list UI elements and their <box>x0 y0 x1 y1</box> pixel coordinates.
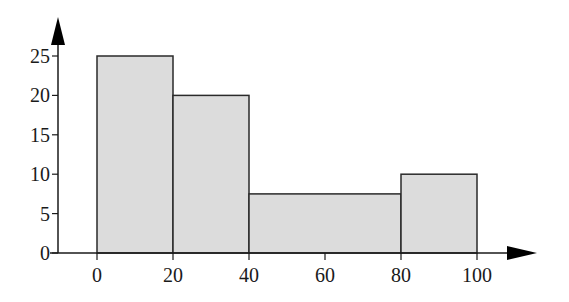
y-axis: 0510152025 <box>30 17 65 264</box>
histogram-bar-40-80 <box>249 194 401 253</box>
y-tick-label: 0 <box>40 242 50 264</box>
x-axis-arrow-icon <box>507 246 537 260</box>
x-tick-label: 0 <box>92 264 102 286</box>
histogram-bars <box>97 56 477 253</box>
x-tick-label: 80 <box>391 264 411 286</box>
y-tick-label: 25 <box>30 45 50 67</box>
histogram-bar-80-100 <box>401 174 477 253</box>
x-tick-label: 100 <box>462 264 492 286</box>
y-tick-label: 10 <box>30 163 50 185</box>
y-axis-arrow-icon <box>51 17 65 45</box>
x-tick-label: 60 <box>315 264 335 286</box>
x-tick-label: 40 <box>239 264 259 286</box>
x-tick-label: 20 <box>163 264 183 286</box>
y-tick-label: 15 <box>30 124 50 146</box>
y-tick-label: 5 <box>40 203 50 225</box>
y-tick-label: 20 <box>30 84 50 106</box>
histogram-chart: 0510152025 020406080100 <box>0 0 569 302</box>
histogram-bar-0-20 <box>97 56 173 253</box>
histogram-bar-20-40 <box>173 95 249 253</box>
